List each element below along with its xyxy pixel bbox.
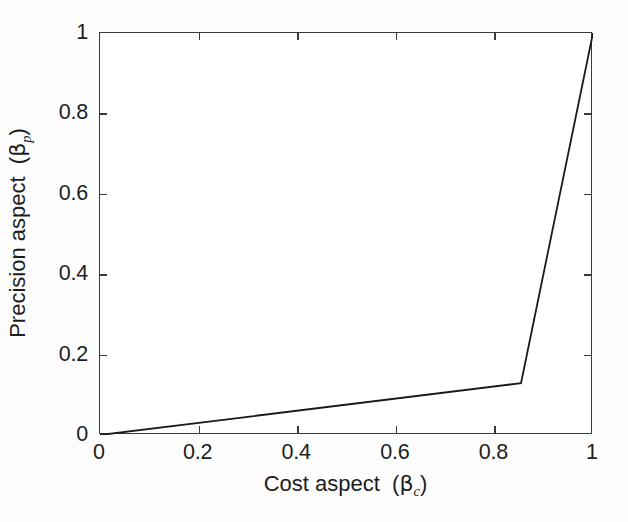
y-tick-mark-right [584,355,591,357]
x-axis-title-paren-open: ( [386,471,399,496]
y-tick-mark [100,355,107,357]
y-tick-mark-right [584,113,591,115]
x-tick-mark [199,426,201,433]
y-tick-mark-right [584,194,591,196]
x-tick-label: 0.2 [183,440,212,465]
y-tick-mark [100,194,107,196]
x-axis-title-text: Cost aspect [264,471,380,496]
data-line-svg [100,33,593,435]
x-tick-mark [297,426,299,433]
x-tick-mark-top [494,33,496,40]
y-axis-tick-labels: 1 0.8 0.6 0.4 0.2 0 [0,0,88,522]
plot-area [99,32,592,434]
y-tick-mark [100,274,107,276]
x-tick-mark-top [297,33,299,40]
x-tick-mark [494,426,496,433]
y-tick-mark-right [584,274,591,276]
x-axis-title: Cost aspect (βc) [99,471,592,500]
x-axis-title-paren-close: ) [420,471,427,496]
y-tick-label: 0.4 [59,261,88,286]
y-tick-label: 1 [76,20,88,45]
y-tick-label: 0 [76,422,88,447]
y-tick-mark [100,113,107,115]
x-tick-label: 0.8 [479,440,508,465]
y-tick-label: 0.2 [59,341,88,366]
x-tick-label: 1 [586,440,598,465]
tradeoff-curve [100,33,593,435]
chart-figure: Precision aspect (βp) 1 0.8 0.6 0.4 0.2 … [0,0,628,522]
x-tick-label: 0 [93,440,105,465]
y-tick-label: 0.6 [59,180,88,205]
x-tick-mark [396,426,398,433]
x-tick-mark-top [199,33,201,40]
x-axis-title-symbol: β [399,471,413,496]
y-tick-label: 0.8 [59,100,88,125]
x-tick-label: 0.4 [282,440,311,465]
x-tick-mark-top [396,33,398,40]
x-tick-label: 0.6 [380,440,409,465]
